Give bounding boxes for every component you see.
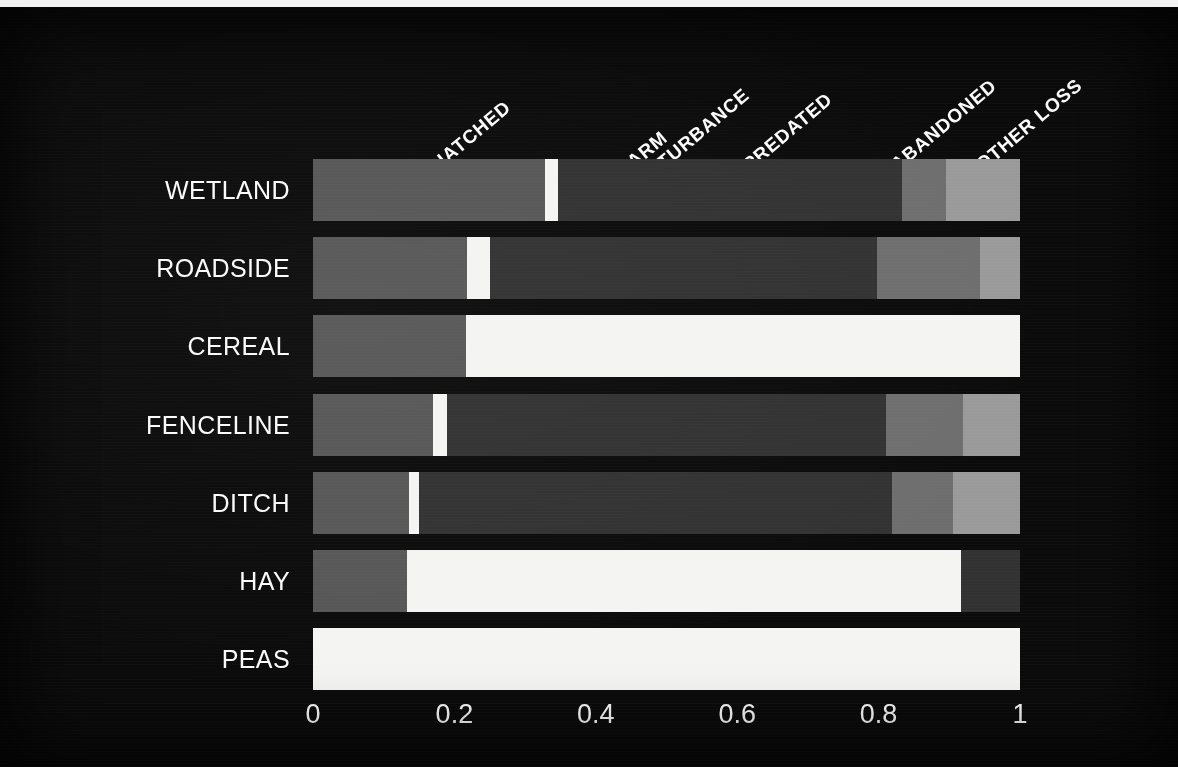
bar-fenceline [313,394,1020,456]
bar-wetland [313,159,1020,221]
bar-peas [313,628,1020,690]
x-tick-1: 1 [1012,701,1027,728]
bar-ditch [313,472,1020,534]
segment-other-loss [980,237,1020,299]
segment-abandoned [877,237,980,299]
segment-hatched [313,237,467,299]
segment-farm-disturbance [467,237,490,299]
bar-cereal [313,315,1020,377]
bar-roadside [313,237,1020,299]
segment-farm-disturbance [433,394,447,456]
category-label-hay: HAY [239,569,290,594]
segment-hatched [313,394,433,456]
category-label-wetland: WETLAND [165,178,290,203]
category-label-peas: PEAS [222,647,290,672]
segment-predated [490,237,877,299]
segment-other-loss [963,394,1020,456]
category-label-cereal: CEREAL [188,334,290,359]
segment-farm-disturbance [407,550,961,612]
plot-area [313,7,1020,767]
segment-hatched [313,159,545,221]
segment-predated [558,159,902,221]
segment-abandoned [892,472,953,534]
segment-farm-disturbance [545,159,558,221]
segment-abandoned [902,159,946,221]
segment-hatched [313,550,407,612]
x-tick-0-2: 0.2 [436,701,474,728]
segment-predated [447,394,885,456]
segment-other-loss [953,472,1020,534]
x-tick-0-6: 0.6 [718,701,756,728]
x-tick-0-8: 0.8 [860,701,898,728]
segment-hatched [313,315,466,377]
category-label-roadside: ROADSIDE [156,256,290,281]
category-label-fenceline: FENCELINE [146,413,290,438]
x-tick-0: 0 [305,701,320,728]
segment-predated [961,550,1020,612]
category-axis-labels: WETLANDROADSIDECEREALFENCELINEDITCHHAYPE… [40,7,290,767]
x-tick-0-4: 0.4 [577,701,615,728]
bar-hay [313,550,1020,612]
segment-other-loss [946,159,1020,221]
category-label-ditch: DITCH [212,491,290,516]
segment-abandoned [886,394,963,456]
segment-farm-disturbance [313,628,1020,690]
stacked-bar-chart: HATCHEDFARM DISTURBANCEPREDATEDABANDONED… [0,0,1178,767]
segment-predated [419,472,892,534]
segment-hatched [313,472,409,534]
segment-farm-disturbance [409,472,419,534]
segment-farm-disturbance [466,315,1020,377]
